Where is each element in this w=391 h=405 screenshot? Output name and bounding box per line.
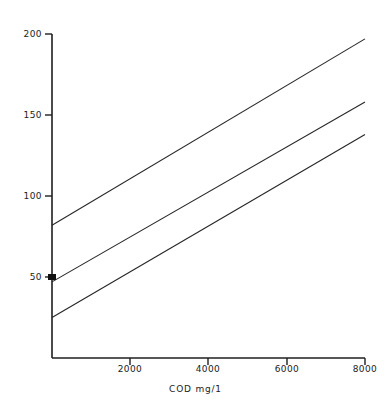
x-axis-ticks <box>130 358 365 365</box>
x-tick-label-8000: 8000 <box>344 364 386 374</box>
x-tick-label-2000: 2000 <box>109 364 151 374</box>
y-tick-label-150: 150 <box>18 110 42 120</box>
series-line-lower <box>52 134 365 317</box>
series-line-upper <box>52 39 365 225</box>
y-tick-label-50: 50 <box>18 272 42 282</box>
x-tick-label-4000: 4000 <box>187 364 229 374</box>
y-tick-label-100: 100 <box>18 191 42 201</box>
y-axis-ticks <box>45 34 52 277</box>
series-line-middle <box>52 102 365 282</box>
x-tick-label-6000: 6000 <box>266 364 308 374</box>
x-axis-title: COD mg/1 <box>0 384 391 394</box>
origin-marker <box>48 274 56 280</box>
y-tick-label-200: 200 <box>18 29 42 39</box>
chart-canvas <box>0 0 391 405</box>
chart-figure: 200 150 100 50 2000 4000 6000 8000 COD m… <box>0 0 391 405</box>
